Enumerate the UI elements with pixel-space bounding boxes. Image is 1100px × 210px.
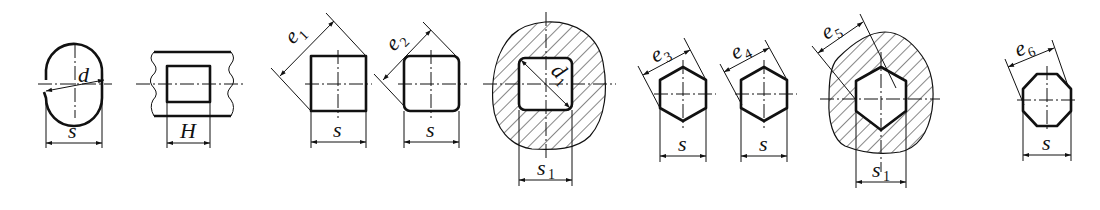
label-s: s [872, 157, 881, 182]
extension-line [326, 13, 366, 56]
shape-square: e 1 s [271, 13, 372, 148]
shape-hexagon-1: e 3 s [638, 37, 716, 162]
shape-square-socket: d 1 s 1 [483, 12, 616, 186]
extension-line [423, 22, 457, 57]
circle-flats-outline [44, 44, 102, 126]
label-s: s [426, 117, 435, 142]
label-s-subscript: 1 [548, 167, 555, 182]
label-H: H [179, 118, 197, 143]
shape-rounded-square: e 2 s [374, 22, 467, 148]
technical-drawing: d s H e 1 s [0, 0, 1100, 210]
extension-line [374, 74, 406, 108]
extension-line [271, 68, 311, 111]
label-s: s [678, 131, 687, 156]
label-s: s [759, 131, 768, 156]
label-s-subscript: 1 [883, 169, 890, 184]
shape-hex-socket: e 5 s 1 [812, 14, 940, 188]
label-s: s [1042, 130, 1051, 155]
extension-line [1005, 59, 1024, 105]
label-s: s [537, 155, 546, 180]
shape-hexagon-2: e 4 s [720, 34, 797, 162]
label-d: d [78, 62, 90, 87]
label-s: s [333, 117, 342, 142]
extension-line [720, 64, 742, 105]
shape-slot: H [136, 52, 246, 148]
shape-circle-flats: d s [38, 44, 112, 148]
label-s: s [68, 118, 77, 143]
shape-octagon: e 6 s [1005, 32, 1078, 161]
hatched-body [493, 22, 606, 150]
